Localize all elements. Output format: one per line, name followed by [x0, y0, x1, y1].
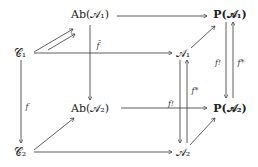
node-p-a2: P(𝒜₂)	[213, 102, 247, 115]
node-c2: 𝒞₂	[14, 146, 26, 159]
label-f-star-left: f*	[192, 86, 199, 95]
label-f-bar: f̄	[97, 41, 100, 50]
node-ab-a1: Ab(𝒜₁)	[71, 8, 109, 21]
node-ab-a2: Ab(𝒜₂)	[71, 102, 109, 115]
label-f: f	[26, 102, 29, 111]
commutative-diagram: Ab(𝒜₁) P(𝒜₁) 𝒞₁ 𝒜₁ Ab(𝒜₂) P(𝒜₂) 𝒞₂ 𝒜₂ f …	[0, 0, 258, 167]
node-p-a1: P(𝒜₁)	[213, 8, 247, 21]
label-f-shriek-right: f!	[215, 58, 221, 67]
node-c1: 𝒞₁	[14, 47, 26, 60]
label-f-shriek-left: f!	[168, 99, 174, 108]
node-a2: 𝒜₂	[176, 146, 190, 159]
node-a1: 𝒜₁	[176, 47, 190, 60]
arrows	[0, 0, 258, 167]
label-f-star-right: f*	[238, 58, 245, 67]
